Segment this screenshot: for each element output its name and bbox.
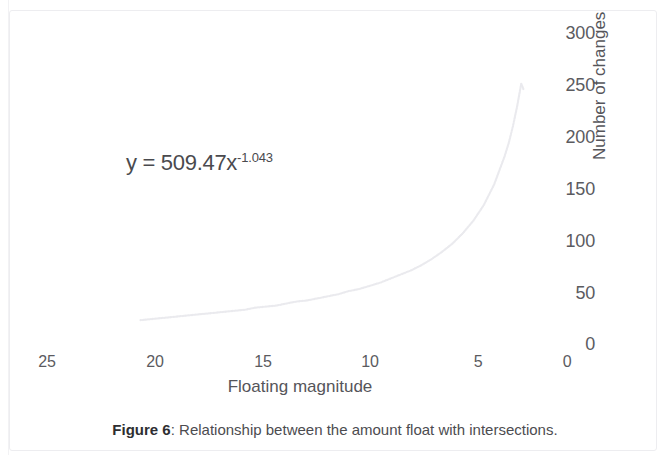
figure-caption: Figure 6: Relationship between the amoun… <box>0 421 670 438</box>
y-tick-label: 300 <box>539 23 595 44</box>
trendline-equation-annotation: y = 509.47x-1.043 <box>126 150 273 176</box>
x-tick-label: 5 <box>456 353 500 371</box>
y-axis-title: Number of changes <box>590 0 610 160</box>
x-tick-label: 15 <box>241 353 285 371</box>
figure-caption-label: Figure 6 <box>112 421 170 438</box>
figure-caption-text: Relationship between the amount float wi… <box>179 421 558 438</box>
y-tick-label: 200 <box>539 127 595 148</box>
x-tick-label: 10 <box>348 353 392 371</box>
x-tick-label: 0 <box>545 353 589 371</box>
y-tick-label: 100 <box>539 231 595 252</box>
figure-container: 300 250 200 150 100 50 0 25 20 15 10 5 0… <box>0 0 670 455</box>
figure-caption-separator: : <box>171 421 179 438</box>
y-tick-label: 50 <box>539 283 595 304</box>
x-tick-label: 25 <box>25 353 69 371</box>
x-tick-label: 20 <box>133 353 177 371</box>
y-tick-label: 0 <box>539 334 595 355</box>
equation-base: y = 509.47x <box>126 150 237 175</box>
y-tick-label: 250 <box>539 75 595 96</box>
data-series-points <box>139 83 524 322</box>
equation-exponent: -1.043 <box>237 150 273 165</box>
y-tick-label: 150 <box>539 179 595 200</box>
x-axis-title: Floating magnitude <box>0 377 600 397</box>
